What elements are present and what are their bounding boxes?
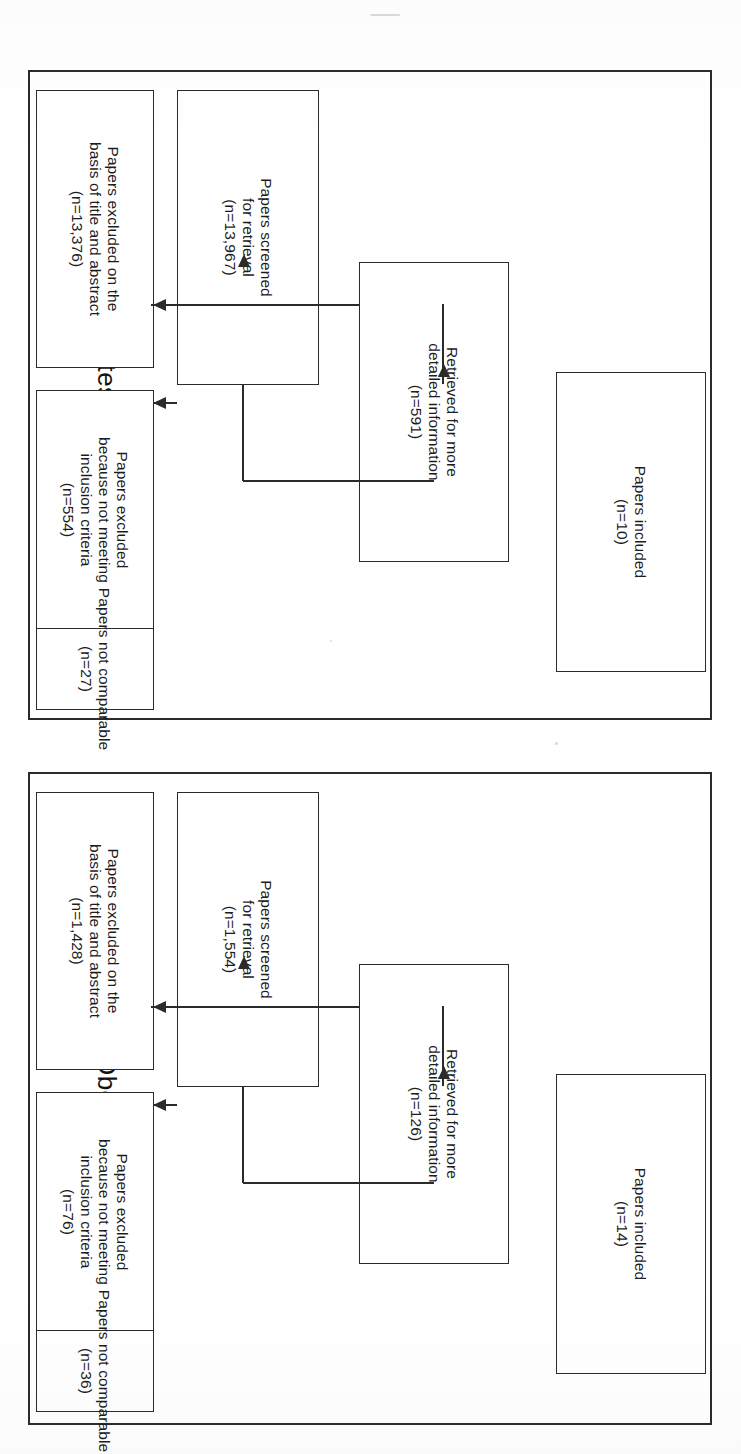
arrowhead-screened-to-excluded: [153, 1099, 166, 1111]
connector-screened-to-retrieved: [242, 1087, 244, 1183]
node-line: inclusion criteria: [77, 454, 95, 567]
node-line: Papers included: [631, 466, 649, 579]
node-line: (n=36): [77, 1348, 95, 1394]
node-not-comparable-diabetes: Papers not comparable (n=27): [36, 628, 154, 710]
node-line: (n=76): [59, 1189, 77, 1235]
node-line: (n=126): [407, 1087, 425, 1142]
connector-retrieved-to-excluded: [151, 304, 359, 306]
node-line: basis of title and abstract: [86, 844, 104, 1018]
node-line: (n=554): [59, 483, 77, 538]
node-line: Papers excluded: [113, 1154, 131, 1271]
node-line: Papers not comparable: [95, 1290, 113, 1452]
connector-screened-riser: [243, 480, 434, 482]
arrowhead-screened-to-retrieved: [238, 956, 250, 969]
arrowhead-screened-to-excluded: [153, 397, 166, 409]
node-excluded-title-abstract-obesity: Papers excluded on the basis of title an…: [36, 792, 154, 1070]
node-line: inclusion criteria: [77, 1156, 95, 1269]
node-line: (n=14): [613, 1201, 631, 1247]
node-line: (n=10): [613, 499, 631, 545]
node-line: (n=1,554): [221, 906, 239, 974]
node-papers-included-diabetes: Papers included (n=10): [556, 372, 706, 672]
node-retrieved-detailed-obesity: Retrieved for more detailed information …: [359, 964, 509, 1264]
node-line: Papers screened: [257, 178, 275, 297]
panel-diabetes-mellitus: Diabetes mellitus Papers screened for re…: [28, 70, 712, 720]
node-retrieved-detailed-diabetes: Retrieved for more detailed information …: [359, 262, 509, 562]
panel-obesity: Obesity Papers screened for retrieval (n…: [28, 772, 712, 1425]
connector-retrieved-to-excluded: [151, 1006, 359, 1008]
node-line: (n=591): [407, 385, 425, 440]
node-papers-screened-diabetes: Papers screened for retrieval (n=13,967): [177, 90, 319, 385]
node-line: basis of title and abstract: [86, 142, 104, 316]
node-line: Papers excluded: [113, 452, 131, 569]
node-line: (n=1,428): [68, 897, 86, 965]
connector-screened-riser: [243, 1182, 434, 1184]
node-line: Papers excluded on the: [104, 146, 122, 311]
flow-stage-obesity: Obesity Papers screened for retrieval (n…: [30, 774, 714, 1427]
node-papers-screened-obesity: Papers screened for retrieval (n=1,554): [177, 792, 319, 1087]
scanned-figure: Diabetes mellitus Papers screened for re…: [0, 0, 741, 1454]
node-papers-included-obesity: Papers included (n=14): [556, 1074, 706, 1374]
flow-stage-diabetes: Diabetes mellitus Papers screened for re…: [30, 72, 714, 722]
node-line: Papers not comparable: [95, 588, 113, 750]
node-not-comparable-obesity: Papers not comparable (n=36): [36, 1330, 154, 1412]
node-line: Papers screened: [257, 880, 275, 999]
node-line: because not meeting: [95, 437, 113, 583]
arrowhead-retrieved-to-excluded: [153, 299, 166, 311]
node-line: (n=13,376): [68, 191, 86, 267]
arrowhead-screened-to-retrieved: [238, 254, 250, 267]
connector-screened-to-retrieved: [242, 385, 244, 481]
node-line: (n=27): [77, 646, 95, 692]
arrowhead-retrieved-to-included: [438, 1066, 450, 1079]
arrowhead-retrieved-to-included: [438, 364, 450, 377]
node-line: Papers included: [631, 1168, 649, 1281]
node-excluded-title-abstract-diabetes: Papers excluded on the basis of title an…: [36, 90, 154, 368]
arrowhead-retrieved-to-excluded: [153, 1001, 166, 1013]
node-line: Papers excluded on the: [104, 848, 122, 1013]
node-line: (n=13,967): [221, 199, 239, 275]
node-line: because not meeting: [95, 1139, 113, 1285]
